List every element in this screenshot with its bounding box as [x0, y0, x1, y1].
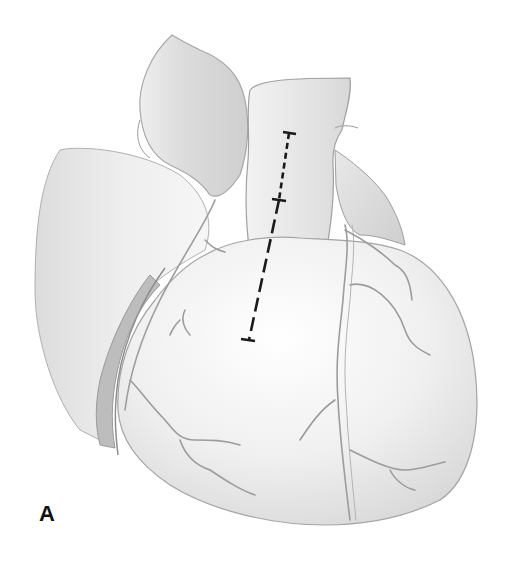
heart-illustration — [0, 0, 509, 569]
panel-label: A — [39, 503, 55, 525]
ventricles — [118, 237, 477, 525]
